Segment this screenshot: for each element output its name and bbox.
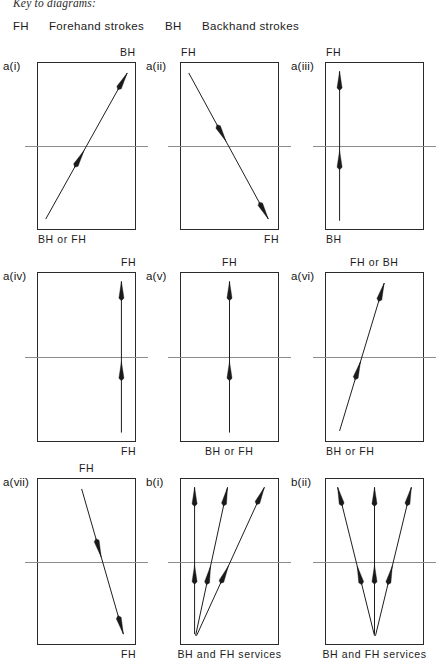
arrows-a-iii <box>326 63 423 229</box>
key-title: Key to diagrams: <box>13 0 96 9</box>
top-caption-a-i: BH <box>120 46 136 58</box>
bottom-caption-a-iii: BH <box>326 233 342 245</box>
service-arrow-vertical <box>372 487 377 634</box>
arrows-a-vi <box>326 273 423 441</box>
diagram-a-vi: a(vi)FH or BHBH or FH <box>291 254 430 462</box>
court-a-vi <box>325 272 424 442</box>
diagram-a-vii: a(vii)FHFH <box>3 460 142 665</box>
diagram-label-a-ii: a(ii) <box>146 60 166 72</box>
legend-bh-text: Backhand strokes <box>202 20 299 32</box>
stroke-arrow-vertical-center <box>227 281 232 432</box>
stroke-arrow-vertical-left <box>337 71 342 220</box>
diagram-label-a-vii: a(vii) <box>3 476 29 488</box>
diagram-label-a-i: a(i) <box>3 60 20 72</box>
diagram-label-b-ii: b(ii) <box>291 476 311 488</box>
bottom-caption-a-ii: FH <box>264 233 279 245</box>
arrows-b-i <box>181 479 278 644</box>
diagram-b-i: b(i)BH and FH services <box>146 460 285 665</box>
diagram-label-a-v: a(v) <box>146 270 167 282</box>
arrows-a-iv <box>38 273 135 441</box>
top-caption-a-vii: FH <box>79 462 94 474</box>
stroke-arrow-steep-up-right <box>340 283 385 431</box>
diagram-a-iii: a(iii)FHBH <box>291 44 430 250</box>
diagram-a-i: a(i)BHBH or FH <box>3 44 142 250</box>
diagram-a-iv: a(iv)FHFH <box>3 254 142 462</box>
stroke-arrow-vertical-right <box>119 281 124 432</box>
service-arrow-vertical <box>192 487 197 634</box>
diagram-a-ii: a(ii)FHFH <box>146 44 285 250</box>
legend-bh-abbr: BH <box>165 20 182 32</box>
top-caption-a-iv: FH <box>121 256 136 268</box>
court-b-i <box>180 478 279 645</box>
service-arrow-left <box>338 487 375 636</box>
diagram-label-a-iii: a(iii) <box>291 60 314 72</box>
diagram-b-ii: b(ii)BH and FH services <box>291 460 430 665</box>
bottom-caption-b-ii: BH and FH services <box>323 648 427 660</box>
service-arrow-right <box>197 487 265 636</box>
court-a-ii <box>180 62 279 230</box>
court-a-vii <box>37 478 136 645</box>
service-arrow-right <box>375 487 411 636</box>
stroke-arrow-diagonal-down-right <box>189 73 269 219</box>
court-a-i <box>37 62 136 230</box>
top-caption-a-ii: FH <box>181 46 196 58</box>
court-a-iv <box>37 272 136 442</box>
diagram-a-v: a(v)FHBH or FH <box>146 254 285 462</box>
bottom-caption-a-i: BH or FH <box>38 233 87 245</box>
top-caption-a-iii: FH <box>326 46 341 58</box>
arrows-b-ii <box>326 479 423 644</box>
bottom-caption-b-i: BH and FH services <box>178 648 282 660</box>
legend-fh-abbr: FH <box>13 20 29 32</box>
court-a-v <box>180 272 279 442</box>
arrows-a-i <box>38 63 135 229</box>
court-b-ii <box>325 478 424 645</box>
bottom-caption-a-vi: BH or FH <box>326 445 375 457</box>
stroke-arrow-steep-down-right <box>82 489 124 634</box>
top-caption-a-vi: FH or BH <box>350 256 399 268</box>
arrows-a-ii <box>181 63 278 229</box>
service-arrow-middle <box>196 487 228 636</box>
diagram-label-a-iv: a(iv) <box>3 270 26 282</box>
bottom-caption-a-vii: FH <box>121 648 136 660</box>
legend-fh-text: Forehand strokes <box>49 20 144 32</box>
arrows-a-vii <box>38 479 135 644</box>
court-a-iii <box>325 62 424 230</box>
arrows-a-v <box>181 273 278 441</box>
diagram-label-a-vi: a(vi) <box>291 270 314 282</box>
bottom-caption-a-v: BH or FH <box>205 445 254 457</box>
top-caption-a-v: FH <box>222 256 237 268</box>
bottom-caption-a-iv: FH <box>121 445 136 457</box>
diagram-label-b-i: b(i) <box>146 476 163 488</box>
stroke-arrow-diagonal-up-right <box>46 73 127 219</box>
legend: FH Forehand strokes BH Backhand strokes <box>13 20 417 38</box>
